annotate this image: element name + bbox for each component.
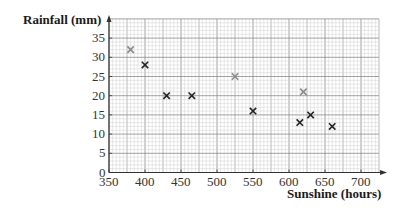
- scatter-plot: [0, 0, 400, 214]
